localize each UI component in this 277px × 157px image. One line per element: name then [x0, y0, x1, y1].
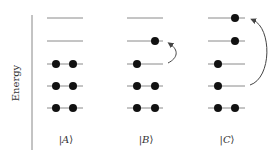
energy-level-diagram: Energy |A⟩	[0, 0, 277, 157]
state-c-levels	[208, 18, 245, 108]
electron-dot	[231, 37, 239, 45]
state-b-electrons	[133, 37, 159, 112]
state-c-electrons	[214, 14, 239, 112]
state-b-levels	[127, 18, 163, 108]
electron-dot	[151, 37, 159, 45]
electron-dot	[69, 60, 77, 68]
state-b-label: |B⟩	[139, 134, 154, 146]
electron-dot	[133, 104, 141, 112]
state-a: |A⟩	[47, 18, 83, 146]
electron-dot	[151, 82, 159, 90]
electron-dot	[214, 82, 222, 90]
excitation-arrow-icon	[250, 20, 267, 85]
state-b: |B⟩	[127, 18, 176, 146]
electron-dot	[214, 104, 222, 112]
electron-dot	[52, 60, 60, 68]
electron-dot	[151, 104, 159, 112]
state-c-label: |C⟩	[220, 134, 235, 146]
state-c: |C⟩	[208, 14, 267, 146]
state-a-label: |A⟩	[59, 134, 74, 146]
electron-dot	[52, 82, 60, 90]
electron-dot	[231, 104, 239, 112]
energy-axis-label: Energy	[10, 64, 21, 101]
electron-dot	[133, 82, 141, 90]
electron-dot	[52, 104, 60, 112]
electron-dot	[133, 60, 141, 68]
electron-dot	[69, 104, 77, 112]
electron-dot	[69, 82, 77, 90]
electron-dot	[231, 14, 239, 22]
excitation-arrow-icon	[168, 44, 176, 63]
electron-dot	[214, 60, 222, 68]
